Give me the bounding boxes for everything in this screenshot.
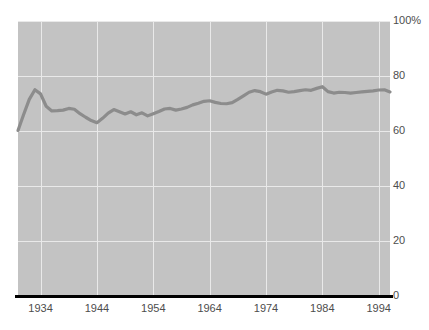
x-tick-label-1994: 1994: [366, 302, 390, 314]
y-tick-label-60: 60: [393, 125, 405, 136]
x-tick-label-1934: 1934: [28, 302, 52, 314]
y-tick-label-20: 20: [393, 235, 405, 246]
x-axis-line: [15, 295, 393, 298]
x-tick-label-1974: 1974: [254, 302, 278, 314]
series-layer: [0, 0, 429, 330]
data-series-line: [18, 87, 390, 131]
y-tick-label-40: 40: [393, 180, 405, 191]
x-tick-label-1954: 1954: [141, 302, 165, 314]
line-chart: 100%806040200 19341944195419641974198419…: [0, 0, 429, 330]
x-tick-label-1964: 1964: [197, 302, 221, 314]
x-tick-label-1944: 1944: [85, 302, 109, 314]
x-tick-label-1984: 1984: [310, 302, 334, 314]
y-tick-label-80: 80: [393, 70, 405, 81]
y-tick-label-0: 0: [393, 290, 399, 301]
y-tick-label-100: 100%: [393, 15, 421, 26]
